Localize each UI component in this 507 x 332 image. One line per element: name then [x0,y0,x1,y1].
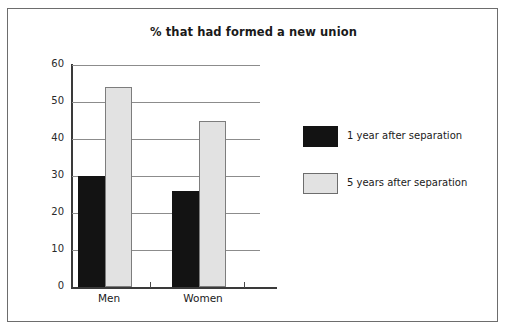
y-tick-label: 60 [24,58,64,69]
legend-label: 1 year after separation [347,130,462,141]
chart-figure: % that had formed a new union 0102030405… [0,0,507,332]
x-category-label: Women [158,292,248,304]
x-category-label: Men [64,292,154,304]
bar [172,191,199,287]
bar [78,176,105,287]
legend-label: 5 years after separation [347,177,467,188]
gridline [72,65,260,66]
legend-swatch [303,173,338,194]
y-tick-label: 30 [24,169,64,180]
y-tick-label: 20 [24,206,64,217]
x-tick-mark [244,282,245,288]
gridline [72,139,260,140]
y-tick-label: 0 [24,280,64,291]
chart-title: % that had formed a new union [0,25,507,39]
gridline [72,102,260,103]
legend-swatch [303,126,338,147]
y-tick-label: 10 [24,243,64,254]
y-tick-label: 40 [24,132,64,143]
gridline [72,287,260,289]
bar [199,121,226,288]
bar [105,87,132,287]
x-tick-mark [150,282,151,288]
y-tick-label: 50 [24,95,64,106]
